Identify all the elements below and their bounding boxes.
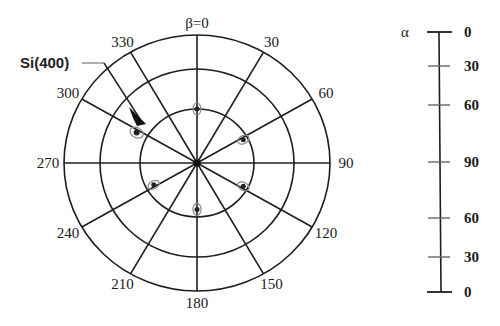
beta-label-300: 300	[57, 85, 80, 101]
spoke-240	[82, 163, 197, 227]
spoke-300	[82, 99, 197, 163]
beta-label-210: 210	[111, 276, 134, 292]
si400-label: Si(400)	[20, 54, 69, 71]
pole-figure: 306090120150180210240270300330 β=0 Si(40…	[0, 0, 500, 326]
alpha-label-3: 90	[464, 154, 479, 170]
alpha-label-4: 60	[464, 210, 479, 226]
alpha-label-0: 0	[464, 24, 472, 40]
center-dot	[194, 160, 201, 167]
spoke-120	[197, 163, 312, 227]
beta-label-330: 330	[111, 34, 134, 50]
beta-label-180: 180	[186, 295, 209, 311]
beta-labels: 306090120150180210240270300330	[37, 34, 354, 311]
alpha-label-5: 30	[464, 249, 479, 265]
beta-label-120: 120	[315, 225, 338, 241]
beta-label-60: 60	[319, 85, 334, 101]
alpha-scale: α 030609060300	[401, 24, 479, 300]
alpha-label-1: 30	[464, 58, 479, 74]
beta-label-240: 240	[57, 225, 80, 241]
beta-zero-label: β=0	[185, 15, 209, 31]
alpha-label-2: 60	[464, 97, 479, 113]
pole-298	[128, 125, 145, 140]
beta-label-270: 270	[37, 155, 60, 171]
beta-label-150: 150	[260, 276, 283, 292]
alpha-symbol: α	[401, 24, 409, 40]
alpha-label-6: 0	[464, 284, 472, 300]
beta-label-30: 30	[264, 34, 279, 50]
si400-annotation: Si(400)	[20, 54, 146, 126]
spoke-60	[197, 99, 312, 163]
beta-spokes	[64, 35, 330, 291]
beta-label-90: 90	[339, 155, 354, 171]
arrowhead-icon	[129, 107, 146, 126]
